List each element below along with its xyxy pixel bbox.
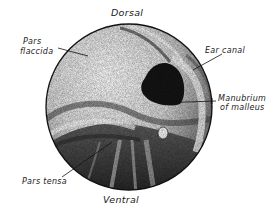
label-dorsal: Dorsal: [111, 8, 143, 17]
label-manubrium-line2: of malleus: [220, 103, 265, 112]
label-ear-canal: Ear canal: [205, 46, 245, 55]
label-pars-flaccida-line1: Pars: [23, 37, 41, 46]
label-pars-tensa: Pars tensa: [22, 177, 67, 186]
label-manubrium-line1: Manubrium: [218, 94, 266, 103]
tympanic-membrane: [40, 20, 220, 200]
label-pars-flaccida-line2: flaccida: [20, 47, 53, 56]
label-ventral: Ventral: [103, 195, 139, 204]
